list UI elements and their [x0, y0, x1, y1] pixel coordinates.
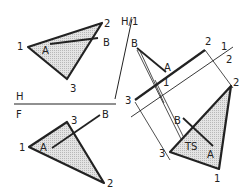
aux1-label-b: B — [131, 38, 138, 49]
fold-line-h1: H/1 — [115, 16, 138, 99]
top-label-2: 2 — [104, 18, 110, 29]
aux2-label-1: 1 — [214, 173, 220, 184]
aux2-label-ts: TS — [184, 141, 197, 152]
aux2-view: 2 1 3 B A TS — [159, 77, 239, 184]
fold-label-f: F — [16, 109, 22, 120]
aux1-line-ab — [137, 48, 166, 72]
descriptive-geometry-diagram: 1 2 3 A B H F H/1 1 2 3 A B 1 2 — [0, 0, 251, 196]
aux2-label-3: 3 — [159, 148, 165, 159]
front-label-1: 1 — [19, 142, 25, 153]
fold-line-hf: H F — [14, 91, 116, 120]
aux2-label-b: B — [174, 115, 181, 126]
top-label-3: 3 — [70, 83, 76, 94]
aux2-label-a: A — [207, 149, 214, 160]
edge-view-line — [135, 50, 205, 100]
fold-label-12-1: 1 — [221, 41, 227, 52]
front-view: 1 2 3 A B — [19, 109, 113, 189]
top-label-1: 1 — [17, 41, 23, 52]
front-label-b: B — [102, 109, 109, 120]
top-view-triangle — [28, 23, 102, 79]
aux1-label-3: 3 — [125, 95, 131, 106]
top-view: 1 2 3 A B — [17, 18, 110, 94]
fold-label-h1: H/1 — [121, 16, 138, 27]
front-label-a: A — [40, 142, 47, 153]
aux2-label-2: 2 — [233, 77, 239, 88]
top-label-b: B — [103, 37, 110, 48]
aux1-label-1: 1 — [163, 77, 169, 88]
fold-label-h: H — [16, 91, 24, 102]
aux1-label-2: 2 — [205, 36, 211, 47]
aux1-label-a: A — [164, 62, 171, 73]
front-label-3: 3 — [71, 115, 77, 126]
fold-label-12-2: 2 — [226, 54, 232, 65]
top-label-a: A — [42, 45, 49, 56]
front-label-2: 2 — [107, 178, 113, 189]
